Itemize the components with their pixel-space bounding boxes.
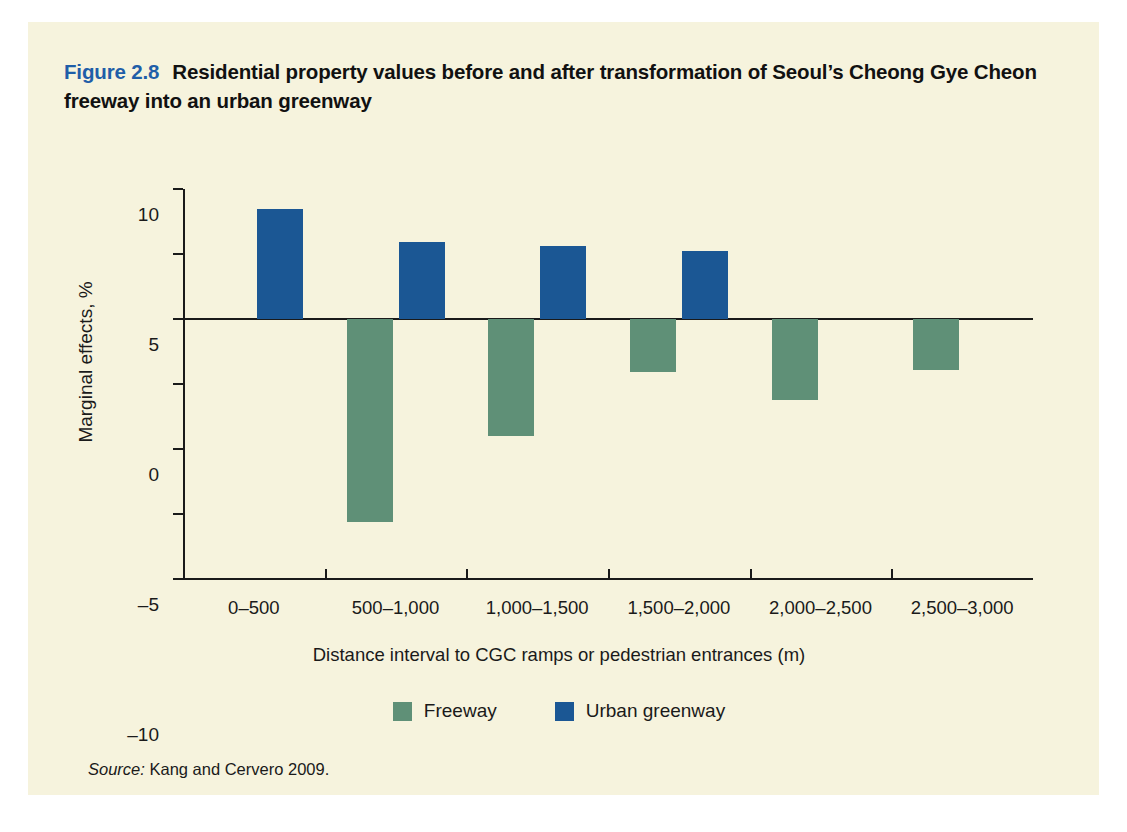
y-tick-label: 5 bbox=[148, 334, 159, 356]
figure-number: Figure 2.8 bbox=[64, 60, 159, 83]
y-tick-label: 10 bbox=[138, 204, 159, 226]
figure-title-text: Residential property values before and a… bbox=[64, 60, 1037, 112]
bar-freeway-2 bbox=[488, 319, 534, 436]
x-tick-label: 1,500–2,000 bbox=[627, 597, 730, 619]
bar-freeway-4 bbox=[772, 319, 818, 400]
bar-freeway-5 bbox=[913, 319, 959, 370]
x-axis-title: Distance interval to CGC ramps or pedest… bbox=[64, 644, 1054, 666]
y-tick-mark: 5 bbox=[173, 253, 183, 255]
x-tick-mark bbox=[325, 569, 327, 578]
y-tick-mark: –15 bbox=[173, 513, 183, 515]
legend-label: Urban greenway bbox=[586, 700, 725, 722]
x-tick-mark bbox=[466, 569, 468, 578]
x-tick-label: 500–1,000 bbox=[352, 597, 439, 619]
chart-legend: FreewayUrban greenway bbox=[64, 700, 1054, 722]
legend-entry-freeway: Freeway bbox=[393, 700, 497, 722]
x-tick-label: 2,000–2,500 bbox=[769, 597, 872, 619]
bar-freeway-3 bbox=[630, 319, 676, 372]
legend-entry-urban-greenway: Urban greenway bbox=[555, 700, 725, 722]
bar-urban-greenway-0 bbox=[257, 209, 303, 320]
y-tick-label: 0 bbox=[148, 464, 159, 486]
y-tick-mark: 10 bbox=[173, 188, 183, 190]
x-tick-label: 1,000–1,500 bbox=[486, 597, 589, 619]
y-axis-line bbox=[183, 189, 185, 579]
bar-urban-greenway-3 bbox=[682, 251, 728, 319]
source-note: Source: Kang and Cervero 2009. bbox=[88, 760, 329, 779]
legend-swatch-icon bbox=[555, 702, 574, 721]
legend-label: Freeway bbox=[424, 700, 497, 722]
x-axis-line bbox=[183, 578, 1033, 580]
plot-area: 1050–5–10–15–20 0–500500–1,0001,000–1,50… bbox=[183, 162, 1033, 587]
figure-card: Figure 2.8Residential property values be… bbox=[28, 22, 1099, 795]
y-tick-label: –5 bbox=[138, 594, 159, 616]
x-tick-mark bbox=[750, 569, 752, 578]
x-tick-label: 0–500 bbox=[228, 597, 279, 619]
y-tick-mark: 0 bbox=[173, 318, 183, 320]
legend-swatch-icon bbox=[393, 702, 412, 721]
figure-title: Figure 2.8Residential property values be… bbox=[64, 57, 1054, 115]
y-tick-mark: –10 bbox=[173, 448, 183, 450]
y-tick-mark: –20 bbox=[173, 578, 183, 580]
source-label: Source: bbox=[88, 760, 145, 778]
y-tick-mark: –5 bbox=[173, 383, 183, 385]
x-tick-mark bbox=[891, 569, 893, 578]
zero-baseline bbox=[183, 318, 1033, 320]
bar-urban-greenway-1 bbox=[399, 242, 445, 319]
source-text: Kang and Cervero 2009. bbox=[149, 760, 329, 778]
x-tick-mark bbox=[608, 569, 610, 578]
x-tick-label: 2,500–3,000 bbox=[911, 597, 1014, 619]
y-tick-label: –10 bbox=[127, 724, 159, 746]
bar-urban-greenway-2 bbox=[540, 246, 586, 319]
bar-freeway-1 bbox=[347, 319, 393, 522]
y-axis-title: Marginal effects, % bbox=[75, 281, 97, 442]
